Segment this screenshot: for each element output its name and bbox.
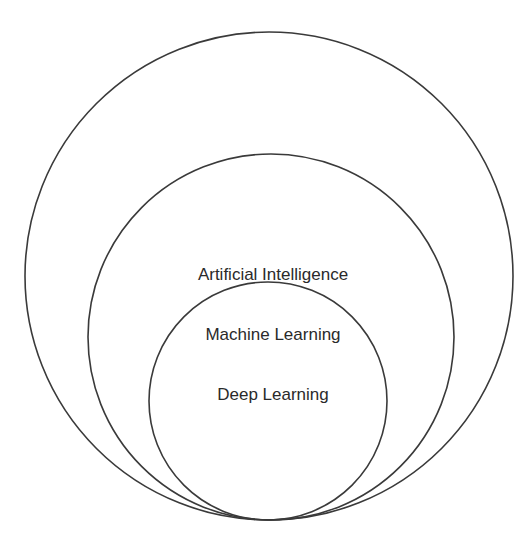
nested-circles-diagram: Artificial Intelligence Machine Learning… — [0, 0, 530, 545]
label-machine-learning: Machine Learning — [205, 325, 340, 344]
label-deep-learning: Deep Learning — [217, 385, 329, 404]
label-artificial-intelligence: Artificial Intelligence — [198, 265, 348, 284]
